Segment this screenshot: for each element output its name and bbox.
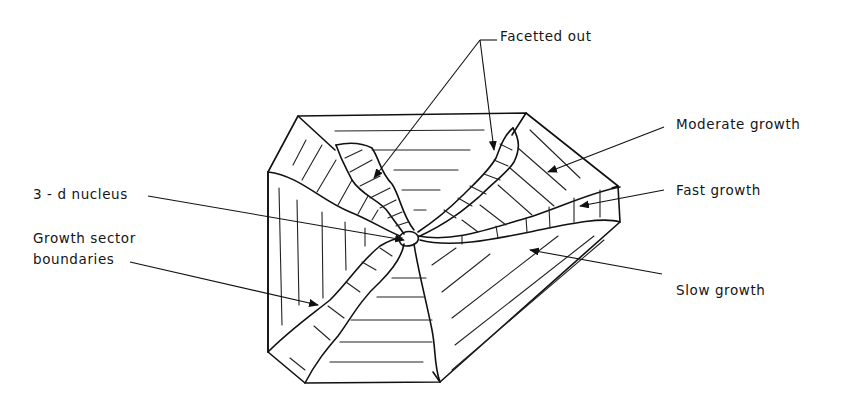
label-slow-growth: Slow growth [676,282,766,299]
top-face-hatching [335,130,484,210]
left-face-hatching [279,188,365,325]
bottom-face-hatching [330,278,432,362]
moderate-growth-hatching [462,130,580,232]
crystal-outline [268,113,620,383]
label-facetted-out: Facetted out [500,28,592,45]
label-moderate-growth: Moderate growth [676,116,800,133]
label-fast-growth: Fast growth [676,182,761,199]
slow-growth-hatching [432,236,604,370]
boundary-band-lower-hatching [290,248,392,370]
label-growth-sector-boundaries-line2: boundaries [33,251,114,268]
label-3d-nucleus: 3 - d nucleus [33,186,128,203]
leader-lines [130,40,664,305]
label-growth-sector-boundaries-line1: Growth sector [33,230,136,247]
left-upper-hatching [293,140,378,220]
